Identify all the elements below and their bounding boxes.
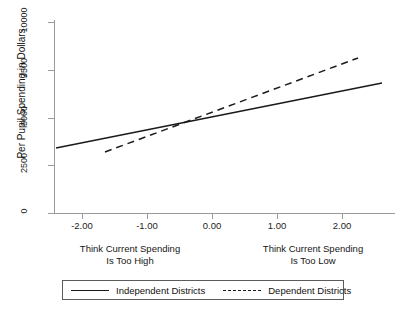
legend-item-independent: Independent Districts xyxy=(71,285,205,296)
annotation-too-high-line2: Is Too High xyxy=(60,255,200,267)
annotation-too-low-line1: Think Current Spending xyxy=(240,243,386,255)
annotation-too-low: Think Current Spending Is Too Low xyxy=(240,243,386,266)
legend-label-independent: Independent Districts xyxy=(116,285,205,296)
chart-figure: 0 2500 5000 7500 10000 Per Pupil Spendin… xyxy=(0,0,404,311)
series-line-dependent xyxy=(105,58,358,152)
legend-item-dependent: Dependent Districts xyxy=(223,285,351,296)
annotation-too-high: Think Current Spending Is Too High xyxy=(60,243,200,266)
legend-label-dependent: Dependent Districts xyxy=(268,285,351,296)
dashed-line-icon xyxy=(223,290,261,291)
series-line-independent xyxy=(56,83,382,148)
annotation-too-low-line2: Is Too Low xyxy=(240,255,386,267)
annotation-too-high-line1: Think Current Spending xyxy=(60,243,200,255)
solid-line-icon xyxy=(71,290,109,291)
chart-legend: Independent Districts Dependent District… xyxy=(62,280,344,300)
